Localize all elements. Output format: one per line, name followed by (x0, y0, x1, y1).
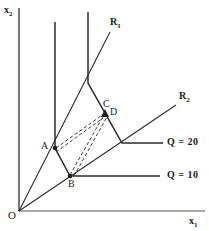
point-b-label: B (68, 179, 75, 189)
point-c-label: C (103, 99, 110, 109)
ray-r2-label: R2 (179, 91, 190, 104)
chord-b-c (74, 115, 108, 176)
origin-label: O (8, 210, 16, 221)
y-axis-label: x2 (4, 5, 13, 18)
ray-r2-line (19, 105, 176, 211)
chord-a-d (56, 113, 105, 148)
diagram-canvas (0, 0, 209, 231)
point-a-label: A (41, 141, 48, 151)
isoquant-q20-label: Q = 20 (167, 137, 198, 147)
isoquant-q10-label: Q = 10 (167, 170, 198, 180)
point-d-label: D (110, 107, 117, 117)
marker-a (53, 146, 58, 151)
ray-r1-line (19, 32, 110, 211)
chord-b-d (70, 113, 105, 175)
marker-cd (101, 109, 109, 117)
ray-r1-label: R1 (110, 17, 121, 30)
chord-a-c (56, 118, 103, 152)
x-axis-label: x1 (189, 216, 198, 229)
isoquant-diagram: x2 x1 O R1 R2 A B C D Q = 20 Q = 10 (0, 0, 209, 231)
